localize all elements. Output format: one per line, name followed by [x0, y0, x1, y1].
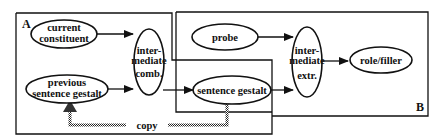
copy-label: copy [137, 120, 159, 131]
svg-text:current: current [47, 22, 81, 33]
node-role-filler: role/filler [350, 47, 412, 73]
diagram-canvas: A B copy current constituent previous se… [0, 0, 444, 140]
svg-text:probe: probe [212, 32, 238, 43]
node-current-constituent: current constituent [31, 20, 97, 48]
svg-text:extr.: extr. [297, 70, 317, 81]
node-probe: probe [192, 24, 258, 50]
node-intermediate-comb: inter- mediate comb. [131, 29, 167, 95]
node-intermediate-extr: inter- mediate extr. [289, 27, 325, 97]
copy-connection: copy [63, 100, 227, 131]
svg-text:constituent: constituent [39, 33, 89, 44]
svg-text:mediate: mediate [289, 55, 325, 66]
node-previous-sentence-gestalt: previous sentence gestalt [26, 75, 108, 103]
region-b-label: B [416, 100, 424, 114]
node-sentence-gestalt: sentence gestalt [193, 76, 271, 104]
svg-text:comb.: comb. [135, 68, 162, 79]
svg-text:sentence gestalt: sentence gestalt [197, 85, 267, 96]
svg-text:sentence gestalt: sentence gestalt [32, 88, 102, 99]
svg-text:previous: previous [48, 77, 86, 88]
svg-text:mediate: mediate [131, 55, 167, 66]
region-a-label: A [22, 17, 31, 31]
svg-text:role/filler: role/filler [360, 55, 402, 66]
